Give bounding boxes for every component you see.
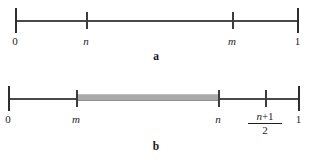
fraction-numerator-suffix: +1 <box>262 110 274 122</box>
panel-b-tick-label-m: m <box>68 113 84 125</box>
panel-b-tick-label-n: n <box>211 113 225 125</box>
panel-a-tick-n <box>86 12 88 29</box>
panel-a-axis-line <box>15 20 298 22</box>
panel-b-caption: b <box>146 140 166 153</box>
panel-a-tick-m <box>232 12 234 29</box>
panel-a-tick-label-n: n <box>79 35 93 47</box>
number-line-figure: 0 n m 1 a 0 m n n+1 2 1 <box>0 0 312 162</box>
fraction-denominator: 2 <box>248 125 282 136</box>
panel-a-caption: a <box>146 50 166 63</box>
panel-b-tick-zero <box>8 86 10 111</box>
panel-b-interval-band <box>76 94 218 101</box>
panel-a-tick-label-one: 1 <box>291 35 304 47</box>
panel-b-tick-n <box>218 90 220 107</box>
panel-a-tick-label-zero: 0 <box>8 35 22 47</box>
fraction-numerator: n+1 <box>248 111 282 123</box>
panel-b-tick-label-zero: 0 <box>1 113 15 125</box>
panel-a-tick-one <box>297 8 299 33</box>
panel-a-tick-zero <box>15 8 17 33</box>
panel-a-tick-label-m: m <box>224 35 240 47</box>
panel-b-tick-one <box>298 86 300 111</box>
panel-b-tick-label-one: 1 <box>292 113 305 125</box>
panel-b-tick-label-n-plus-1-over-2: n+1 2 <box>248 111 282 136</box>
panel-b-tick-n-plus-1-over-2 <box>265 90 267 107</box>
panel-b-tick-m <box>76 90 78 107</box>
